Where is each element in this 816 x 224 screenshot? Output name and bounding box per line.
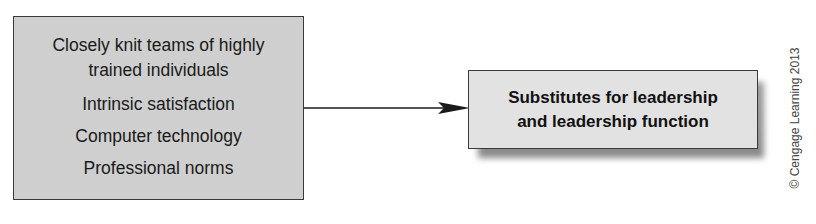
source-item-computer-technology: Computer technology [75,125,241,147]
copyright-notice: © Cengage Learning 2013 [788,48,802,189]
source-item-teams: Closely knit teams of highly trained ind… [52,33,264,83]
target-box-line-2: and leadership function [517,110,709,134]
target-box-line-1: Substitutes for leadership [508,86,718,110]
source-item-intrinsic-satisfaction: Intrinsic satisfaction [82,93,235,115]
source-item-teams-line-1: Closely knit teams of highly [52,35,264,55]
substitutes-target-box: Substitutes for leadership and leadershi… [468,70,758,149]
arrow-connector [304,100,470,116]
source-item-professional-norms: Professional norms [84,157,234,179]
substitutes-source-box: Closely knit teams of highly trained ind… [13,16,304,200]
source-item-teams-line-2: trained individuals [88,60,228,80]
